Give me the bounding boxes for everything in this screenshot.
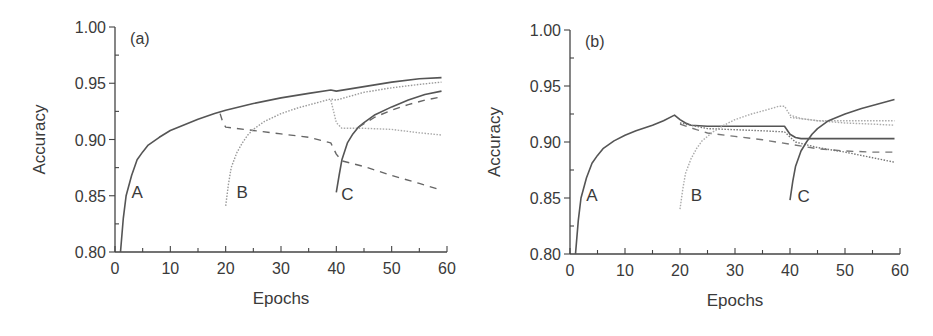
y-tick-label: 0.90 bbox=[75, 132, 106, 149]
x-tick-label: 60 bbox=[891, 262, 909, 279]
x-axis-title: Epochs bbox=[707, 291, 764, 310]
x-tick-label: 60 bbox=[438, 260, 456, 277]
y-axis-title: Accuracy bbox=[485, 107, 504, 177]
panel-label: (a) bbox=[130, 30, 150, 47]
x-tick-label: 30 bbox=[726, 262, 744, 279]
x-tick-label: 10 bbox=[161, 260, 179, 277]
series-b bbox=[680, 106, 895, 209]
series-a-main bbox=[121, 78, 442, 252]
x-tick-label: 10 bbox=[616, 262, 634, 279]
y-tick-label: 0.95 bbox=[75, 75, 106, 92]
x-tick-label: 40 bbox=[781, 262, 799, 279]
y-tick-label: 0.85 bbox=[530, 190, 561, 207]
series-b-dotted-after-40 bbox=[331, 100, 442, 135]
series-c-dashed bbox=[359, 97, 442, 127]
curve-label-c: C bbox=[341, 185, 353, 204]
chart-panel-b: 01020304050600.800.850.900.951.00EpochsA… bbox=[485, 22, 909, 310]
x-tick-label: 30 bbox=[272, 260, 290, 277]
y-tick-label: 0.90 bbox=[530, 134, 561, 151]
x-tick-label: 20 bbox=[671, 262, 689, 279]
curve-label-a: A bbox=[131, 183, 143, 202]
y-tick-label: 0.80 bbox=[530, 246, 561, 263]
series-c bbox=[336, 91, 441, 192]
curve-label-b: B bbox=[691, 186, 702, 205]
x-tick-label: 50 bbox=[836, 262, 854, 279]
x-tick-label: 50 bbox=[383, 260, 401, 277]
series-b bbox=[226, 82, 442, 206]
x-tick-label: 0 bbox=[111, 260, 120, 277]
x-axis-title: Epochs bbox=[253, 289, 310, 308]
curve-label-b: B bbox=[237, 183, 248, 202]
curve-label-c: C bbox=[798, 187, 810, 206]
y-tick-label: 0.85 bbox=[75, 188, 106, 205]
chart-panel-a: 01020304050600.800.850.900.951.00EpochsA… bbox=[30, 19, 456, 308]
y-tick-label: 0.95 bbox=[530, 78, 561, 95]
x-tick-label: 20 bbox=[217, 260, 235, 277]
curve-label-a: A bbox=[586, 186, 598, 205]
y-axis-title: Accuracy bbox=[30, 104, 49, 174]
x-tick-label: 40 bbox=[327, 260, 345, 277]
y-tick-label: 1.00 bbox=[75, 19, 106, 36]
series-a-dashed-after-20 bbox=[220, 114, 441, 191]
series-c bbox=[790, 99, 895, 200]
panel-label: (b) bbox=[585, 33, 605, 50]
y-tick-label: 0.80 bbox=[75, 244, 106, 261]
figure: 01020304050600.800.850.900.951.00EpochsA… bbox=[0, 0, 933, 336]
x-tick-label: 0 bbox=[566, 262, 575, 279]
y-tick-label: 1.00 bbox=[530, 22, 561, 39]
